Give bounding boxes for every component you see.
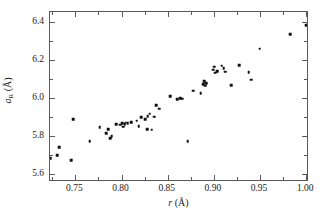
y-axis-title: aR (Å) (2, 61, 15, 121)
data-point (144, 118, 147, 121)
x-axis-symbol: r (168, 197, 172, 208)
data-point (56, 154, 59, 157)
data-point (153, 116, 156, 119)
data-point (146, 128, 149, 131)
data-point (140, 116, 143, 119)
data-point (72, 118, 75, 121)
data-point (88, 140, 91, 143)
data-point (204, 85, 207, 88)
data-point (247, 71, 250, 74)
data-point (155, 104, 158, 107)
x-axis-tick-label: 0.90 (205, 183, 222, 194)
x-axis-title: r (Å) (49, 197, 308, 209)
plot-frame (49, 11, 308, 181)
y-axis-unit: (Å) (2, 77, 13, 91)
x-axis-tick-label: 0.75 (66, 183, 83, 194)
data-point (238, 64, 241, 67)
data-point (186, 140, 189, 143)
y-axis-subscript: R (7, 94, 15, 99)
data-point (222, 67, 225, 70)
data-point (250, 79, 253, 82)
x-axis-tick-label: 0.95 (251, 183, 268, 194)
y-axis-symbol: a (2, 99, 13, 104)
x-axis-tick-label: 0.85 (158, 183, 175, 194)
y-axis-tick-label: 5.6 (18, 167, 44, 178)
y-axis-tick-label: 6.2 (18, 54, 44, 65)
data-point (205, 82, 208, 85)
data-point (107, 128, 110, 131)
data-point (115, 123, 118, 126)
data-point (158, 107, 161, 110)
data-point (216, 70, 219, 73)
data-point (105, 132, 108, 135)
data-point (289, 33, 292, 36)
data-point (70, 159, 73, 162)
y-axis-tick-label: 6.4 (18, 16, 44, 27)
data-point (126, 122, 129, 125)
x-axis-tick-label: 0.80 (112, 183, 129, 194)
data-point (199, 92, 202, 95)
data-point (169, 95, 172, 98)
data-point (111, 135, 114, 138)
data-point (58, 146, 61, 149)
data-point (230, 84, 233, 87)
x-axis-unit: (Å) (175, 197, 189, 208)
data-point (99, 126, 102, 129)
data-point (122, 125, 125, 128)
data-point (148, 113, 151, 116)
data-point (213, 65, 216, 68)
data-point (258, 48, 261, 51)
data-point (224, 70, 227, 73)
y-axis-tick-label: 5.8 (18, 129, 44, 140)
data-point (130, 121, 133, 124)
data-point-layer (50, 12, 307, 180)
data-point (137, 125, 140, 128)
data-point (305, 24, 307, 27)
data-point (192, 89, 195, 92)
data-point (147, 115, 150, 118)
x-axis-tick-label: 1.00 (297, 183, 314, 194)
data-point (50, 157, 51, 160)
data-point (181, 97, 184, 100)
data-point (150, 128, 153, 131)
data-point (135, 119, 138, 122)
y-axis-tick-label: 6.0 (18, 91, 44, 102)
scatter-plot-figure: aR (Å) r (Å) 0.750.800.850.900.951.005.6… (0, 0, 322, 217)
